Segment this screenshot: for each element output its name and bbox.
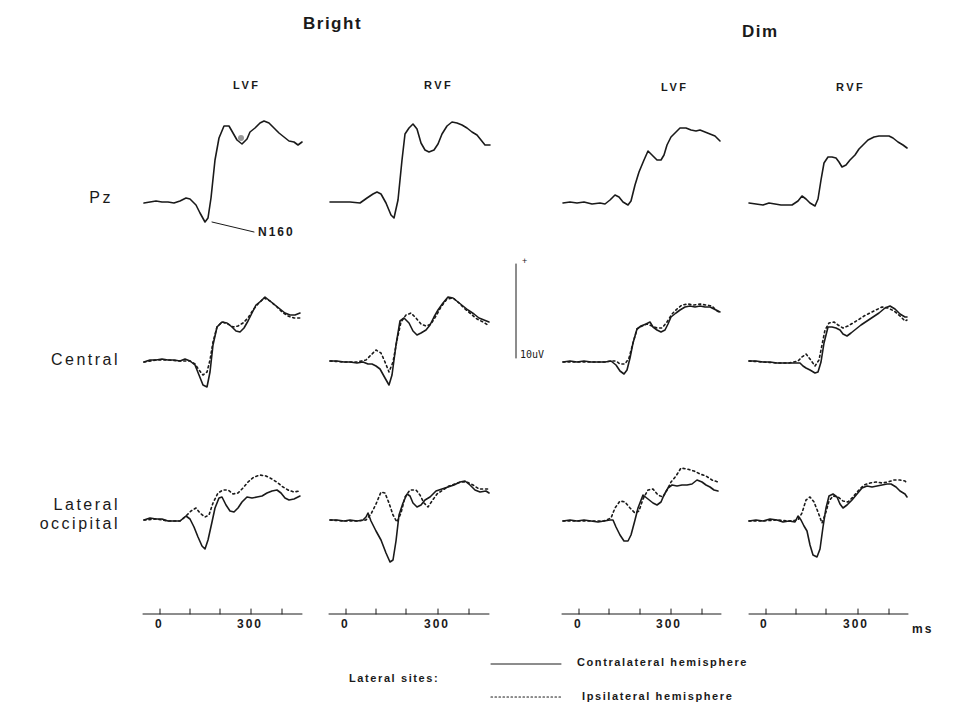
waveform-dim-lvf-latocc-contra <box>563 480 718 541</box>
waveform-dim-rvf-latocc-contra <box>749 484 907 557</box>
waveform-dim-lvf-central-ipsi <box>563 304 720 364</box>
n160-pointer-line <box>212 222 254 232</box>
waveform-bright-lvf-central-ipsi <box>144 298 300 375</box>
waveform-dim-lvf-latocc-ipsi <box>563 468 718 521</box>
waveform-bright-rvf-latocc-contra <box>330 481 489 562</box>
waveform-dim-lvf-pz <box>563 128 720 205</box>
waveform-bright-lvf-latocc-contra <box>144 490 300 549</box>
waveform-dim-rvf-central-ipsi <box>749 307 907 366</box>
waveform-bright-rvf-central-ipsi <box>330 298 488 372</box>
waveform-dim-rvf-central-contra <box>749 306 907 373</box>
waveform-bright-lvf-pz <box>144 121 302 222</box>
waveform-bright-rvf-pz <box>330 122 490 218</box>
waveform-bright-lvf-central-contra <box>144 297 300 387</box>
erp-figure <box>0 0 955 724</box>
waveform-bright-rvf-latocc-ipsi <box>330 482 489 522</box>
waveform-bright-rvf-central-contra <box>330 297 489 385</box>
waveform-dim-rvf-pz <box>749 136 907 206</box>
scan-smudge <box>238 135 244 141</box>
time-axes <box>143 609 908 614</box>
waveform-dim-lvf-central-contra <box>563 306 720 374</box>
